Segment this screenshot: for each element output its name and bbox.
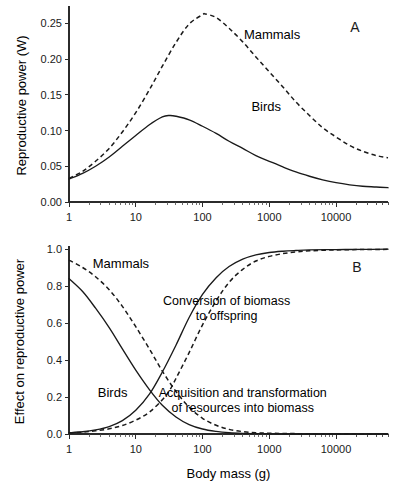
y-axis-A: 0.000.050.100.150.200.25 [41,17,69,208]
annotation-acquisition-and-transformation-line2: of resources into biomass [172,401,314,415]
x-tick-label: 100 [193,443,211,455]
y-axis-title-A: Reproductive power (W) [14,35,29,175]
y-tick-label: 0.0 [47,428,62,440]
axis-lines [69,6,388,202]
curves-A [69,14,388,188]
x-tick-label: 1 [66,443,72,455]
y-tick-label: 0.8 [47,280,62,292]
annotation-birds: Birds [98,385,128,400]
x-tick-label: 10 [130,443,142,455]
annotation-mammals: Mammals [93,256,150,271]
y-tick-label: 0.10 [41,125,62,137]
x-tick-label: 10 [130,211,142,223]
y-tick-label: 0.4 [47,354,62,366]
y-tick-label: 0.6 [47,317,62,329]
two-panel-figure: 0.000.050.100.150.200.25110100100010000B… [0,0,401,485]
panel-letter-B: B [352,259,361,275]
y-tick-label: 0.00 [41,196,62,208]
y-tick-label: 0.2 [47,391,62,403]
figure-container: 0.000.050.100.150.200.25110100100010000B… [0,0,401,485]
y-tick-label: 1.0 [47,243,62,255]
x-axis-B: 110100100010000 [66,434,388,455]
panel-B: 0.00.20.40.60.81.0110100100010000Convers… [12,243,388,455]
panel-A: 0.000.050.100.150.200.25110100100010000B… [14,6,388,223]
x-tick-label: 1000 [257,443,281,455]
y-tick-label: 0.20 [41,53,62,65]
x-tick-label: 100 [193,211,211,223]
y-axis-B: 0.00.20.40.60.81.0 [47,243,69,440]
x-tick-label: 10000 [321,211,352,223]
series-label-birds: Birds [251,99,281,114]
x-tick-label: 10000 [321,443,352,455]
y-axis-title-B: Effect on reproductive power [12,258,27,424]
annotation-conversion-of-biomass-line2: to offspring [196,309,258,323]
series-curve-mammals [69,14,388,179]
annotation-acquisition-and-transformation-line1: Acquisition and transformation [159,386,327,400]
series-label-mammals: Mammals [244,27,301,42]
x-axis-title: Body mass (g) [187,466,271,481]
y-tick-label: 0.05 [41,160,62,172]
x-tick-label: 1000 [257,211,281,223]
annotations-B: Conversion of biomassto offspringAcquisi… [93,256,327,416]
y-tick-label: 0.25 [41,17,62,29]
annotation-conversion-of-biomass-line1: Conversion of biomass [163,294,290,308]
series-curve-birds [69,115,388,187]
x-axis-A: 110100100010000 [66,202,388,223]
x-tick-label: 1 [66,211,72,223]
panel-letter-A: A [350,19,360,35]
y-tick-label: 0.15 [41,89,62,101]
